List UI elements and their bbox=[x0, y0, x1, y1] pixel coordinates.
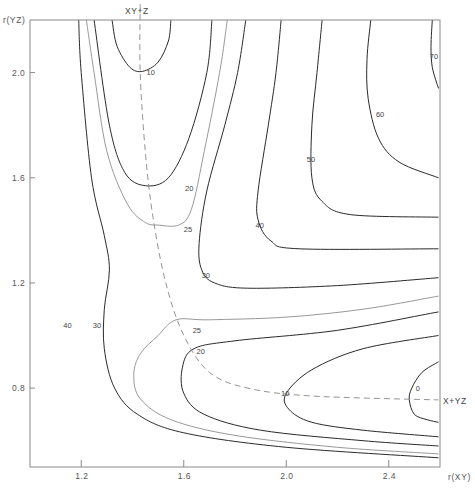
contour-label-40: 40 bbox=[63, 321, 71, 330]
contour-label-25: 25 bbox=[184, 225, 192, 234]
contour-40-points bbox=[257, 20, 439, 249]
contour-10-points bbox=[112, 20, 171, 72]
contour-label-60: 60 bbox=[376, 110, 384, 119]
y-axis-label: r(YZ) bbox=[3, 15, 25, 25]
contour-label-25: 25 bbox=[193, 326, 201, 335]
y-tick-label: 2.0 bbox=[12, 68, 25, 78]
contour-25-points bbox=[158, 20, 227, 226]
x-tick-label: 1.2 bbox=[75, 471, 88, 481]
reaction-start-label: XY+Z bbox=[125, 6, 149, 16]
x-tick-label: 2.4 bbox=[383, 471, 396, 481]
y-tick-label: 0.8 bbox=[12, 383, 25, 393]
contour-0-points bbox=[409, 362, 438, 423]
x-tick-label: 2.0 bbox=[280, 471, 293, 481]
y-tick-label: 1.2 bbox=[12, 278, 25, 288]
plot-frame bbox=[30, 20, 440, 467]
contour-label-20: 20 bbox=[185, 184, 193, 193]
contour-label-50: 50 bbox=[307, 155, 315, 164]
contour-50-points bbox=[311, 20, 439, 217]
contour-30-lower-branch bbox=[79, 20, 439, 458]
y-tick-label: 1.6 bbox=[12, 173, 25, 183]
x-axis-ticks: 1.21.62.02.4 bbox=[75, 460, 396, 481]
reaction-path bbox=[140, 4, 439, 400]
contour-20-points bbox=[94, 20, 212, 186]
contour-60-points bbox=[367, 20, 439, 178]
reaction-end-label: X+YZ bbox=[443, 396, 467, 406]
contour-25-lower-branch bbox=[134, 296, 439, 454]
x-axis-label: r(XY) bbox=[448, 472, 471, 482]
contour-label-70: 70 bbox=[430, 52, 438, 61]
contour-label-40: 40 bbox=[256, 221, 264, 230]
chart-canvas: 1.21.62.02.4 2.01.61.20.8 r(YZ) r(XY) XY… bbox=[0, 0, 475, 490]
contour-label-10: 10 bbox=[147, 68, 155, 77]
contour-label-0: 0 bbox=[416, 384, 420, 393]
contour-label-10: 10 bbox=[281, 389, 289, 398]
contour-lines bbox=[79, 20, 439, 458]
contour-label-20: 20 bbox=[197, 347, 205, 356]
contour-label-30: 30 bbox=[202, 271, 210, 280]
x-tick-label: 1.6 bbox=[178, 471, 191, 481]
y-axis-ticks: 2.01.61.20.8 bbox=[12, 68, 35, 394]
contour-25-left-branch bbox=[86, 20, 158, 225]
contour-label-30: 30 bbox=[93, 321, 101, 330]
reaction-path-line bbox=[140, 4, 439, 400]
contour-chart: 1.21.62.02.4 2.01.61.20.8 r(YZ) r(XY) XY… bbox=[0, 0, 475, 490]
